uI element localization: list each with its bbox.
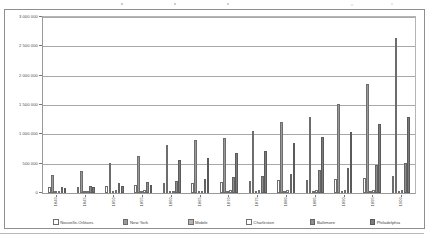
legend-label: New York xyxy=(130,220,148,225)
legend-swatch-icon xyxy=(53,219,59,225)
x-axis-tick-label: 1880 xyxy=(284,197,289,207)
bar[interactable] xyxy=(378,124,381,193)
bar[interactable] xyxy=(280,122,283,193)
x-axis-tick-label: 1850 xyxy=(112,197,117,207)
legend-item[interactable]: New York xyxy=(104,219,166,225)
bar-group xyxy=(215,17,244,193)
bar[interactable] xyxy=(194,140,197,193)
bar-group xyxy=(243,17,272,193)
x-axis-tick-cell: 1850 xyxy=(100,195,129,217)
x-axis-tick-cell: 1900 xyxy=(387,195,416,217)
bar[interactable] xyxy=(137,156,140,193)
bar[interactable] xyxy=(407,117,410,193)
bar[interactable] xyxy=(264,151,267,193)
x-axis-tick-cell: 1860 xyxy=(157,195,186,217)
legend-swatch-icon xyxy=(370,219,376,225)
y-axis-tick-label: 3 000 000 xyxy=(19,14,38,19)
x-axis-tick-cell: 1845 xyxy=(71,195,100,217)
legend-swatch-icon xyxy=(246,219,252,225)
legend-label: Baltimore xyxy=(317,220,335,225)
x-axis-tick-cell: 1875 xyxy=(243,195,272,217)
bar[interactable] xyxy=(252,131,255,193)
plot-area xyxy=(42,16,416,194)
legend-label: Philadelphia xyxy=(377,220,400,225)
bar[interactable] xyxy=(207,158,210,193)
legend-item[interactable]: Nouvelle-Orléans xyxy=(42,219,104,225)
bar[interactable] xyxy=(321,137,324,193)
y-axis-tick-label: 2 500 000 xyxy=(19,43,38,48)
bar[interactable] xyxy=(223,138,226,193)
x-axis-tick-label: 1865 xyxy=(198,197,203,207)
bar[interactable] xyxy=(109,163,112,193)
y-axis-tick-label: 2 000 000 xyxy=(19,72,38,77)
bar-group xyxy=(157,17,186,193)
x-axis-tick-label: 1890 xyxy=(342,197,347,207)
legend-label: Mobile xyxy=(195,220,208,225)
x-axis-tick-label: 1840 xyxy=(54,197,59,207)
bar[interactable] xyxy=(121,186,124,193)
scan-artifact-bottom xyxy=(0,233,424,234)
bar-group xyxy=(358,17,387,193)
x-axis-tick-label: 1845 xyxy=(83,197,88,207)
bar[interactable] xyxy=(235,153,238,193)
bar[interactable] xyxy=(92,187,95,193)
bar[interactable] xyxy=(166,145,169,193)
legend-swatch-icon xyxy=(123,219,129,225)
x-axis-tick-cell: 1885 xyxy=(301,195,330,217)
x-axis-labels: 1840184518501855186018651870187518801885… xyxy=(42,195,416,217)
legend-item[interactable]: Charleston xyxy=(229,219,291,225)
y-axis-tick-label: 0 xyxy=(36,190,38,195)
legend-swatch-icon xyxy=(310,219,316,225)
bar-group xyxy=(300,17,329,193)
legend-label: Nouvelle-Orléans xyxy=(60,220,93,225)
x-axis-tick-cell: 1870 xyxy=(215,195,244,217)
chart-frame: 3 000 0002 500 0002 000 0001 500 0001 00… xyxy=(4,9,425,229)
chart-plot-wrapper: 3 000 0002 500 0002 000 0001 500 0001 00… xyxy=(5,10,426,230)
bar-group xyxy=(186,17,215,193)
x-axis-tick-label: 1860 xyxy=(169,197,174,207)
bar-groups xyxy=(43,17,415,193)
legend-swatch-icon xyxy=(188,219,194,225)
x-axis-tick-label: 1875 xyxy=(255,197,260,207)
bar[interactable] xyxy=(80,171,83,193)
legend-label: Charleston xyxy=(253,220,274,225)
x-axis-tick-label: 1855 xyxy=(140,197,145,207)
x-axis-tick-cell: 1890 xyxy=(330,195,359,217)
bar[interactable] xyxy=(395,38,398,193)
bar-group xyxy=(272,17,301,193)
x-axis-tick-cell: 1855 xyxy=(128,195,157,217)
bar[interactable] xyxy=(309,117,312,193)
bar[interactable] xyxy=(350,132,353,193)
scan-artifact-top xyxy=(0,0,430,9)
x-axis-tick-label: 1885 xyxy=(313,197,318,207)
legend-item[interactable]: Philadelphia xyxy=(354,219,416,225)
bar[interactable] xyxy=(293,143,296,193)
bar[interactable] xyxy=(150,185,153,194)
y-axis-tick-label: 500 000 xyxy=(23,160,39,165)
x-axis-tick-cell: 1865 xyxy=(186,195,215,217)
x-axis-tick-label: 1870 xyxy=(227,197,232,207)
y-axis-tick-label: 1 500 000 xyxy=(19,102,38,107)
bar-group xyxy=(129,17,158,193)
chart-legend: Nouvelle-OrléansNew YorkMobileCharleston… xyxy=(42,217,416,227)
bar[interactable] xyxy=(64,188,67,193)
x-axis-tick-cell: 1895 xyxy=(358,195,387,217)
legend-item[interactable]: Baltimore xyxy=(291,219,353,225)
bar-group xyxy=(329,17,358,193)
bar-group xyxy=(43,17,72,193)
legend-item[interactable]: Mobile xyxy=(167,219,229,225)
bar-group xyxy=(100,17,129,193)
bar[interactable] xyxy=(366,84,369,193)
bar-group xyxy=(386,17,415,193)
x-axis-tick-cell: 1880 xyxy=(272,195,301,217)
chart-page: 3 000 0002 500 0002 000 0001 500 0001 00… xyxy=(0,0,430,239)
x-axis-tick-cell: 1840 xyxy=(42,195,71,217)
x-axis-tick-label: 1900 xyxy=(399,197,404,207)
bar[interactable] xyxy=(337,104,340,193)
bar[interactable] xyxy=(178,160,181,193)
x-axis-tick-label: 1895 xyxy=(371,197,376,207)
y-axis-labels: 3 000 0002 500 0002 000 0001 500 0001 00… xyxy=(5,10,38,200)
y-axis-tick-label: 1 000 000 xyxy=(19,131,38,136)
bar-group xyxy=(72,17,101,193)
